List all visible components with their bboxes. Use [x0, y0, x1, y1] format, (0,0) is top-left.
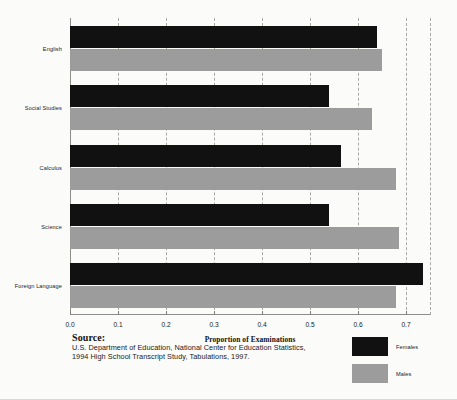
bar-females-science: [70, 204, 329, 226]
bar-males-foreign-language: [70, 286, 396, 308]
category-label-foreign-language: Foreign Language: [15, 283, 62, 289]
tickmark: [358, 311, 359, 315]
legend-swatch-males: [352, 364, 388, 383]
source-block: Source: U.S. Department of Education, Na…: [72, 332, 352, 362]
x-axis-line: [70, 314, 430, 315]
category-label-science: Science: [41, 224, 62, 230]
bar-males-science: [70, 227, 399, 249]
legend-swatch-females: [352, 337, 388, 356]
tickmark: [166, 311, 167, 315]
x-tick-label: 0.2: [161, 321, 170, 328]
x-tick-label: 0.4: [257, 321, 266, 328]
legend-label-females: Females: [396, 344, 418, 350]
source-line-1: U.S. Department of Education, National C…: [72, 343, 352, 352]
legend-item-males: Males: [352, 364, 452, 391]
plot-area: EnglishSocial StudiesCalculusScienceFore…: [70, 18, 430, 315]
tickmark: [70, 311, 71, 315]
bar-males-social-studies: [70, 108, 372, 130]
x-tick-label: 0.6: [353, 321, 362, 328]
category-label-social-studies: Social Studies: [25, 105, 62, 111]
x-tick-label: 0.3: [209, 321, 218, 328]
tickmark: [310, 311, 311, 315]
legend-label-males: Males: [396, 371, 411, 377]
gridline: [430, 18, 431, 315]
tickmark: [118, 311, 119, 315]
bar-males-english: [70, 49, 382, 71]
bar-females-foreign-language: [70, 263, 423, 285]
bar-females-calculus: [70, 145, 341, 167]
tickmark: [406, 311, 407, 315]
legend: FemalesMales: [352, 337, 452, 391]
source-line-2: 1994 High School Transcript Study, Tabul…: [72, 352, 352, 361]
x-tick-label: 0.7: [401, 321, 410, 328]
bar-females-social-studies: [70, 85, 329, 107]
tickmark: [214, 311, 215, 315]
category-label-calculus: Calculus: [40, 165, 62, 171]
x-tick-label: 0.5: [305, 321, 314, 328]
source-heading: Source:: [72, 332, 352, 343]
bar-females-english: [70, 26, 377, 48]
tickmark: [262, 311, 263, 315]
x-tick-label: 0.0: [65, 321, 74, 328]
bar-males-calculus: [70, 168, 396, 190]
x-tick-label: 0.1: [113, 321, 122, 328]
chart-figure: EnglishSocial StudiesCalculusScienceFore…: [0, 0, 457, 400]
category-label-english: English: [43, 46, 62, 52]
legend-item-females: Females: [352, 337, 452, 364]
